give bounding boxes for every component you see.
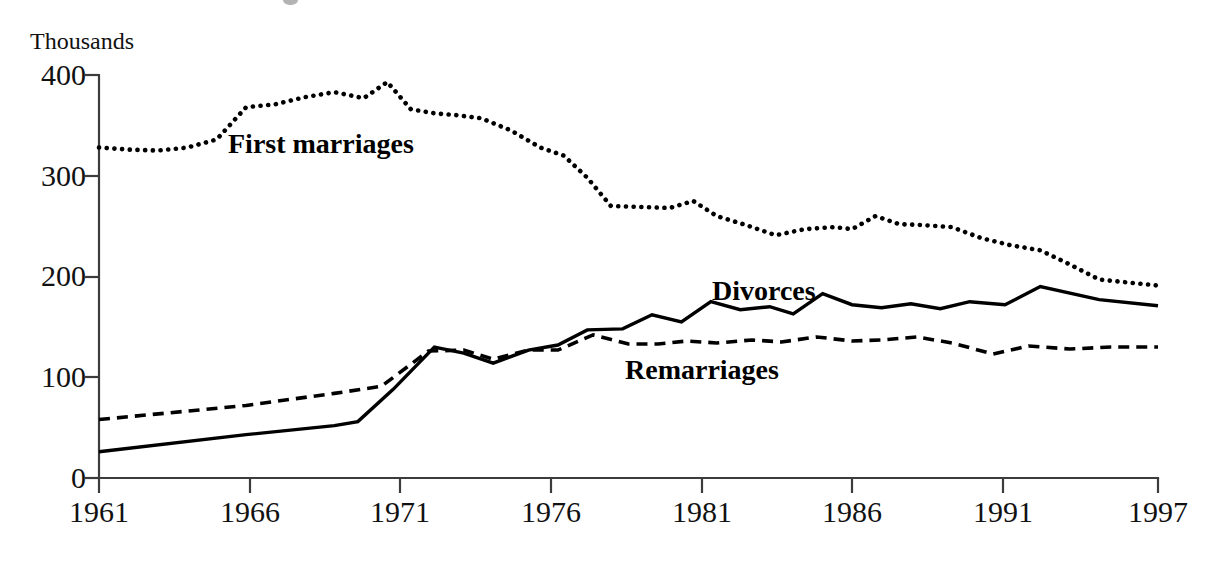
series-line-divorces [99,287,1158,452]
series-line-remarriages [99,335,1158,420]
chart-container: Thousands 400 300 200 100 0 1961 1966 19… [0,0,1213,571]
series-line-first-marriages [99,82,1158,286]
plot-area [0,0,1213,571]
y-axis-ticks [84,75,99,478]
axis-spine [99,75,1158,478]
x-axis-ticks [99,478,1158,493]
